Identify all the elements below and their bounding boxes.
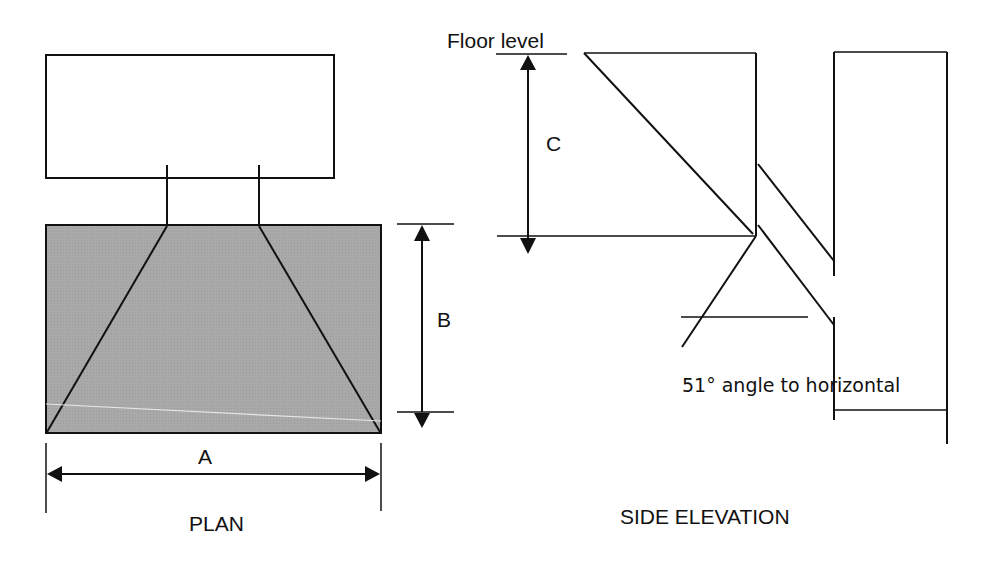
arrow-right-icon bbox=[365, 466, 380, 482]
angle-label: 51° angle to horizontal bbox=[682, 374, 900, 396]
side-elevation-title: SIDE ELEVATION bbox=[620, 505, 790, 528]
arrow-up-icon bbox=[520, 55, 536, 70]
arrow-down-icon bbox=[520, 238, 536, 254]
upper-room-outline bbox=[46, 55, 334, 178]
diagram-canvas: A B PLAN Floor level C 51° angle to hori… bbox=[0, 0, 998, 564]
angle-incline-line bbox=[682, 236, 756, 347]
stair-lower-edge bbox=[758, 225, 834, 325]
dim-a-label: A bbox=[198, 445, 212, 468]
floor-opening-area bbox=[46, 225, 381, 433]
arrow-left-icon bbox=[47, 466, 62, 482]
plan-view bbox=[46, 55, 454, 513]
headroom-diagonal bbox=[584, 53, 753, 234]
arrow-down-icon bbox=[414, 413, 430, 428]
stair-upper-edge bbox=[758, 164, 834, 261]
floor-level-label: Floor level bbox=[447, 29, 544, 52]
arrow-up-icon bbox=[414, 225, 430, 241]
dim-c-label: C bbox=[546, 132, 561, 155]
dim-b-label: B bbox=[437, 308, 451, 331]
plan-title: PLAN bbox=[189, 512, 244, 535]
